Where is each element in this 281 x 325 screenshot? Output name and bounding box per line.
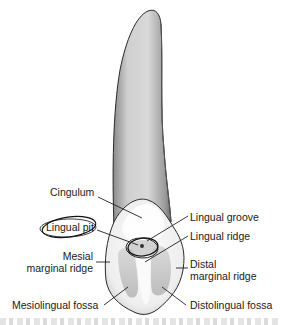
lingual-pit: [140, 244, 144, 248]
label-lingual-groove: Lingual groove: [190, 211, 259, 223]
label-lingual-pit: Lingual pit: [46, 221, 94, 233]
label-distal-marginal-ridge: Distal marginal ridge: [190, 258, 257, 282]
label-distal-line1: Distal: [190, 258, 257, 270]
tooth-diagram: Cingulum Lingual pit Lingual groove Ling…: [0, 0, 281, 325]
cropped-caption-line: [0, 318, 281, 325]
label-lingual-ridge: Lingual ridge: [190, 230, 250, 242]
label-distolingual-fossa: Distolingual fossa: [190, 299, 272, 311]
label-mesial-line2: marginal ridge: [26, 262, 93, 274]
label-mesiolingual-fossa: Mesiolingual fossa: [12, 299, 98, 311]
label-cingulum: Cingulum: [50, 186, 94, 198]
label-mesial-line1: Mesial: [26, 250, 93, 262]
label-distal-line2: marginal ridge: [190, 270, 257, 282]
label-mesial-marginal-ridge: Mesial marginal ridge: [26, 250, 93, 274]
